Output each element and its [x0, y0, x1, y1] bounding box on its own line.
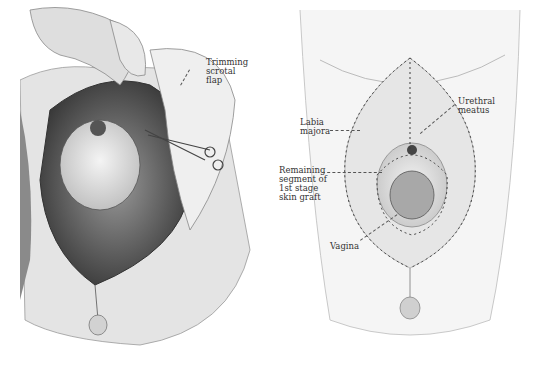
left-panel-illustration: [20, 0, 270, 366]
label-urethral-meatus: Urethral meatus: [458, 97, 495, 115]
label-vagina: Vagina: [330, 242, 359, 251]
leader-line-remaining: [322, 172, 382, 173]
leader-line-labia: [330, 130, 360, 131]
surgical-illustration: Trimming scrotal flap Labia majora Ureth…: [0, 0, 539, 366]
left-panel-drawing: [20, 0, 270, 366]
label-remaining-segment: Remaining segment of 1st stage skin graf…: [279, 166, 327, 202]
label-labia-majora: Labia majora: [300, 118, 330, 136]
label-trimming-scrotal-flap: Trimming scrotal flap: [206, 58, 248, 85]
